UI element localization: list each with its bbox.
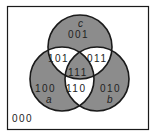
- region-001: 001: [68, 29, 89, 40]
- set-label-c: c: [78, 18, 83, 29]
- region-010: 010: [100, 83, 121, 94]
- region-011: 011: [87, 53, 107, 64]
- region-110: 110: [66, 83, 86, 94]
- venn-diagram: c a b 001 101 011 111 100 110 010 000: [0, 0, 155, 137]
- set-label-a: a: [46, 94, 52, 105]
- region-000: 000: [12, 113, 33, 124]
- set-label-b: b: [107, 94, 113, 105]
- region-100: 100: [35, 83, 56, 94]
- region-111: 111: [68, 67, 88, 78]
- region-101: 101: [48, 53, 69, 64]
